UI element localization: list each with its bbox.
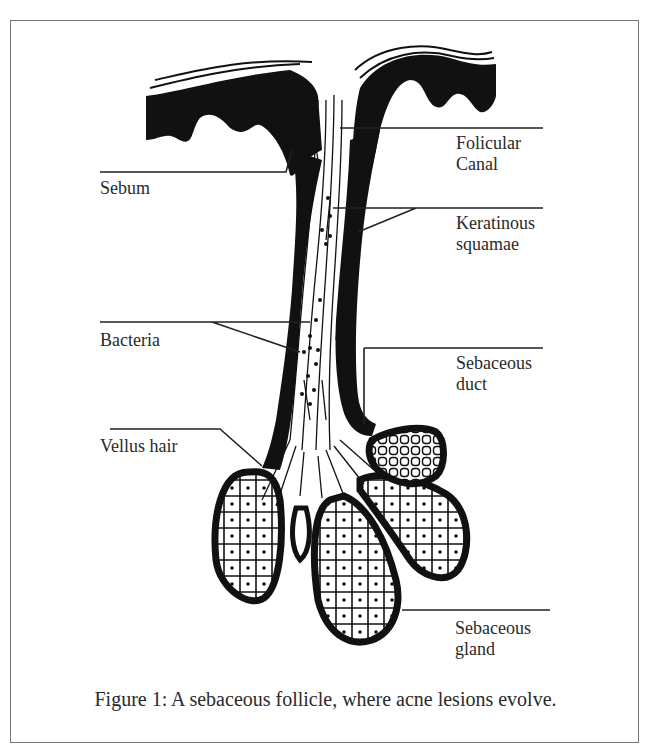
label-bacteria: Bacteria	[100, 330, 160, 351]
label-keratinous-squamae-line2: squamae	[456, 234, 535, 255]
label-folicular-canal: Folicular Canal	[456, 133, 521, 175]
label-vellus-hair: Vellus hair	[100, 436, 177, 457]
label-bacteria-text: Bacteria	[100, 330, 160, 350]
label-sebaceous-gland-line1: Sebaceous	[455, 618, 531, 639]
label-sebaceous-duct-line1: Sebaceous	[456, 353, 532, 374]
label-folicular-canal-line2: Canal	[456, 154, 521, 175]
leader-sebum	[100, 150, 292, 172]
label-folicular-canal-line1: Folicular	[456, 133, 521, 154]
label-sebaceous-duct-line2: duct	[456, 374, 532, 395]
label-vellus-hair-text: Vellus hair	[100, 436, 177, 456]
label-sebaceous-gland-line2: gland	[455, 639, 531, 660]
label-keratinous-squamae: Keratinous squamae	[456, 213, 535, 255]
label-sebaceous-duct: Sebaceous duct	[456, 353, 532, 395]
label-keratinous-squamae-line1: Keratinous	[456, 213, 535, 234]
sebaceous-follicle-illustration	[0, 0, 651, 751]
label-sebaceous-gland: Sebaceous gland	[455, 618, 531, 660]
label-sebum-text: Sebum	[100, 178, 150, 198]
figure-caption: Figure 1: A sebaceous follicle, where ac…	[0, 688, 651, 711]
label-sebum: Sebum	[100, 178, 150, 199]
